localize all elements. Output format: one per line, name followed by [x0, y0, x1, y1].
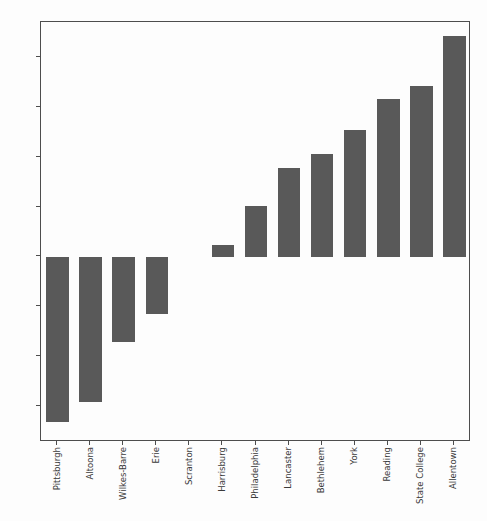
plot-area: [40, 21, 470, 441]
x-tick-label-text: Wilkes-Barre: [118, 447, 128, 500]
y-tick-mark: [36, 355, 40, 356]
y-tick-mark: [36, 156, 40, 157]
x-tick-mark: [420, 441, 421, 445]
y-tick-mark: [36, 56, 40, 57]
bar-lancaster[interactable]: [278, 168, 300, 257]
x-tick-label-text: Allentown: [448, 447, 458, 489]
x-tick-label-text: Pittsburgh: [52, 447, 62, 490]
x-tick-mark: [354, 441, 355, 445]
x-tick-mark: [56, 441, 57, 445]
bars-layer: [41, 22, 469, 440]
bar-york[interactable]: [344, 130, 366, 256]
x-tick-label-text: Bethlehem: [316, 447, 326, 493]
bar-pittsburgh[interactable]: [46, 257, 68, 422]
bar-philadelphia[interactable]: [245, 206, 267, 257]
y-tick-mark: [36, 305, 40, 306]
x-tick-mark: [155, 441, 156, 445]
y-tick-mark: [36, 106, 40, 107]
y-tick-mark: [36, 206, 40, 207]
bar-reading[interactable]: [377, 99, 399, 257]
x-tick-mark: [122, 441, 123, 445]
bar-altoona[interactable]: [79, 257, 101, 402]
x-tick-label-text: Philadelphia: [250, 447, 260, 499]
x-tick-label-text: Lancaster: [283, 447, 293, 489]
bar-harrisburg[interactable]: [212, 245, 234, 257]
bar-allentown[interactable]: [443, 36, 465, 257]
x-tick-label-text: Scranton: [184, 447, 194, 485]
bar-wilkes-barre[interactable]: [112, 257, 134, 343]
x-tick-mark: [453, 441, 454, 445]
y-tick-mark: [36, 405, 40, 406]
bar-state-college[interactable]: [410, 86, 432, 257]
x-tick-label-text: Harrisburg: [217, 447, 227, 492]
x-tick-label-text: State College: [415, 447, 425, 504]
x-tick-mark: [288, 441, 289, 445]
bar-bethlehem[interactable]: [311, 154, 333, 257]
bar-chart-figure: 10.07.55.02.50.0−2.5−5.0−7.5 PittsburghA…: [0, 0, 487, 521]
x-tick-label-text: York: [349, 447, 359, 465]
x-tick-mark: [188, 441, 189, 445]
x-tick-mark: [387, 441, 388, 445]
x-tick-mark: [321, 441, 322, 445]
x-tick-label-text: Altoona: [85, 447, 95, 480]
x-tick-label-text: Erie: [151, 447, 161, 463]
bar-erie[interactable]: [146, 257, 168, 314]
x-tick-mark: [89, 441, 90, 445]
x-tick-label-text: Reading: [382, 447, 392, 482]
x-tick-mark: [221, 441, 222, 445]
x-tick-mark: [255, 441, 256, 445]
y-tick-mark: [36, 255, 40, 256]
